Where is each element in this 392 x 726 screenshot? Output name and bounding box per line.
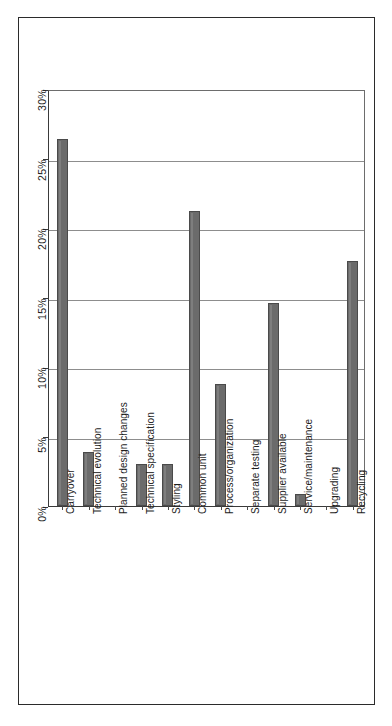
x-tick-mark <box>115 506 116 510</box>
category-label: Recycling <box>356 470 367 514</box>
bar-chart: 0%5%10%15%20%25%30% CarryoverTechnical e… <box>19 18 376 706</box>
gridline-15% <box>49 300 364 301</box>
y-tick-label-0%: 0% <box>36 506 48 552</box>
category-label: Process/organization <box>224 419 235 514</box>
category-label: Separate testing <box>250 440 261 514</box>
y-tick-label-25%: 25% <box>36 159 48 205</box>
x-tick-mark <box>89 506 90 510</box>
gridline-20% <box>49 230 364 231</box>
x-tick-mark <box>142 506 143 510</box>
category-label: Styling <box>171 483 182 514</box>
category-label: Technical evolution <box>92 428 103 514</box>
category-label: Upgrading <box>329 467 340 514</box>
x-tick-mark <box>247 506 248 510</box>
gridline-25% <box>49 161 364 162</box>
gridline-10% <box>49 369 364 370</box>
x-tick-mark <box>300 506 301 510</box>
category-label: Service/maintenance <box>303 419 314 514</box>
x-tick-mark <box>62 506 63 510</box>
y-tick-label-15%: 15% <box>36 298 48 344</box>
x-tick-mark <box>353 506 354 510</box>
category-label: Carryover <box>65 469 76 514</box>
x-tick-mark <box>274 506 275 510</box>
category-label: Planned design changes <box>118 402 129 514</box>
y-tick-label-10%: 10% <box>36 367 48 413</box>
x-tick-mark <box>168 506 169 510</box>
x-tick-mark <box>221 506 222 510</box>
category-label: Technical specification <box>145 412 156 514</box>
y-tick-label-20%: 20% <box>36 228 48 274</box>
category-label: Common unit <box>197 453 208 514</box>
x-tick-mark <box>326 506 327 510</box>
figure-frame: 0%5%10%15%20%25%30% CarryoverTechnical e… <box>18 17 375 705</box>
category-label: Supplier available <box>277 433 288 514</box>
bar <box>57 139 68 506</box>
x-tick-mark <box>194 506 195 510</box>
y-tick-label-30%: 30% <box>36 89 48 135</box>
y-tick-label-5%: 5% <box>36 437 48 483</box>
